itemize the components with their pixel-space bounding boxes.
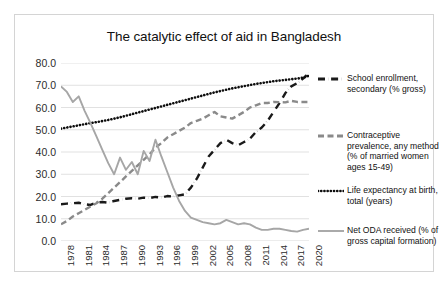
- y-tick-label: 0.0: [41, 235, 56, 247]
- legend-label: Life expectancy at birth, total (years): [347, 185, 444, 206]
- y-tick-label: 30.0: [36, 168, 56, 180]
- legend-entry-2[interactable]: Life expectancy at birth, total (years): [318, 185, 444, 206]
- x-tick-label: 2002: [207, 245, 218, 266]
- x-tick-label: 1996: [171, 245, 182, 266]
- legend-entry-1[interactable]: Contraceptive prevalence, any method (% …: [318, 130, 444, 172]
- legend-label: Net ODA received (% of gross capital for…: [347, 225, 444, 246]
- y-tick-label: 40.0: [36, 146, 56, 158]
- y-tick-label: 10.0: [36, 213, 56, 225]
- legend-entry-3[interactable]: Net ODA received (% of gross capital for…: [318, 225, 444, 246]
- x-tick-label: 2008: [242, 245, 253, 266]
- x-tick-label: 1993: [154, 245, 165, 266]
- plot-area-wrapper: 0.010.020.030.040.050.060.070.080.0 1978…: [61, 63, 309, 241]
- dash-dot-marker: [318, 73, 344, 85]
- plot-canvas: [61, 63, 309, 241]
- x-tick-label: 2020: [313, 245, 324, 266]
- x-tick-label: 1984: [100, 245, 111, 266]
- x-tick-label: 1981: [83, 245, 94, 266]
- x-tick-label: 1999: [189, 245, 200, 266]
- chart-container: The catalytic effect of aid in Banglades…: [14, 14, 434, 272]
- x-tick-label: 1990: [136, 245, 147, 266]
- dotted-marker: [318, 185, 344, 197]
- chart-title: The catalytic effect of aid in Banglades…: [15, 29, 433, 44]
- solid-marker: [318, 225, 344, 237]
- x-tick-label: 1978: [65, 245, 76, 266]
- y-tick-label: 20.0: [36, 191, 56, 203]
- x-tick-label: 2005: [224, 245, 235, 266]
- legend-label: Contraceptive prevalence, any method (% …: [347, 130, 444, 172]
- series-line-3: [61, 86, 309, 231]
- series-line-2: [61, 76, 309, 129]
- x-tick-label: 2011: [260, 245, 271, 265]
- x-tick-label: 2017: [295, 245, 306, 266]
- y-tick-label: 50.0: [36, 124, 56, 136]
- y-tick-label: 80.0: [36, 57, 56, 69]
- dashed-marker: [318, 130, 344, 142]
- y-tick-label: 60.0: [36, 102, 56, 114]
- y-tick-label: 70.0: [36, 79, 56, 91]
- series-line-1: [61, 101, 309, 224]
- legend-label: School enrollment, secondary (% gross): [347, 73, 444, 94]
- x-tick-label: 1987: [118, 245, 129, 266]
- legend-entry-0[interactable]: School enrollment, secondary (% gross): [318, 73, 444, 94]
- x-tick-label: 2014: [278, 245, 289, 266]
